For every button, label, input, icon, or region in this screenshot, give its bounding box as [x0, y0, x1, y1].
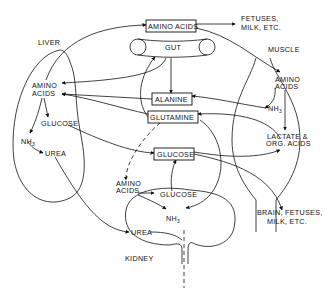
fetuses-top-line2: MILK, ETC. — [241, 23, 281, 32]
muscle-label: MUSCLE — [268, 45, 300, 54]
brain-line2: MILK, ETC. — [267, 217, 307, 226]
liver-acids-label: ACIDS — [32, 89, 55, 98]
gut-label: GUT — [165, 43, 181, 52]
liver-nh3-label: NH3 — [21, 137, 35, 147]
glutamine-box-label: GLUTAMINE — [150, 113, 194, 122]
alanine-box-label: ALANINE — [155, 95, 188, 104]
kidney-urea-line — [150, 232, 182, 240]
kidney-label: KIDNEY — [125, 254, 154, 263]
kidney-urea-label: UREA — [131, 228, 152, 237]
arrow-liveracids-to-glucose — [44, 98, 48, 117]
muscle-nh3-label: NH3 — [268, 104, 282, 114]
arrow-glutamine-to-gut — [141, 57, 155, 117]
kidney-acids-label: ACIDS — [116, 186, 139, 195]
kidney-nh3-label: NH3 — [166, 214, 180, 224]
arrow-glutamine-to-liver — [62, 94, 148, 114]
kidney-outline — [125, 188, 235, 264]
arrow-glucose-to-brain — [194, 154, 282, 210]
arrow-muscle-to-alanine — [192, 96, 266, 108]
arrow-liver-to-aminoacids — [46, 25, 146, 80]
metabolism-diagram: LIVER MUSCLE GUT KIDNEY AMINO ACIDS ALAN… — [0, 0, 326, 294]
fetuses-top-line1: FETUSES, — [241, 14, 279, 23]
brain-line1: BRAIN, FETUSES, — [257, 208, 323, 217]
muscle-orgacids-label: ORG. ACIDS — [266, 139, 311, 148]
amino-acids-box-label: AMINO ACIDS — [148, 22, 198, 31]
arrow-glucose-to-muscle — [194, 150, 280, 156]
kidney-glucose-label: GLUCOSE — [160, 190, 197, 199]
arrow-gut-to-liver — [62, 58, 166, 83]
liver-urea-label: UREA — [45, 149, 66, 158]
glucose-box-label: GLUCOSE — [157, 150, 194, 159]
liver-label: LIVER — [38, 38, 60, 47]
arrow-kidneyglucose-to-glucose — [171, 160, 176, 191]
muscle-acids-label: ACIDS — [275, 82, 298, 91]
liver-glucose-label: GLUCOSE — [41, 119, 78, 128]
arrow-liverglucose-to-glucose — [68, 125, 154, 153]
